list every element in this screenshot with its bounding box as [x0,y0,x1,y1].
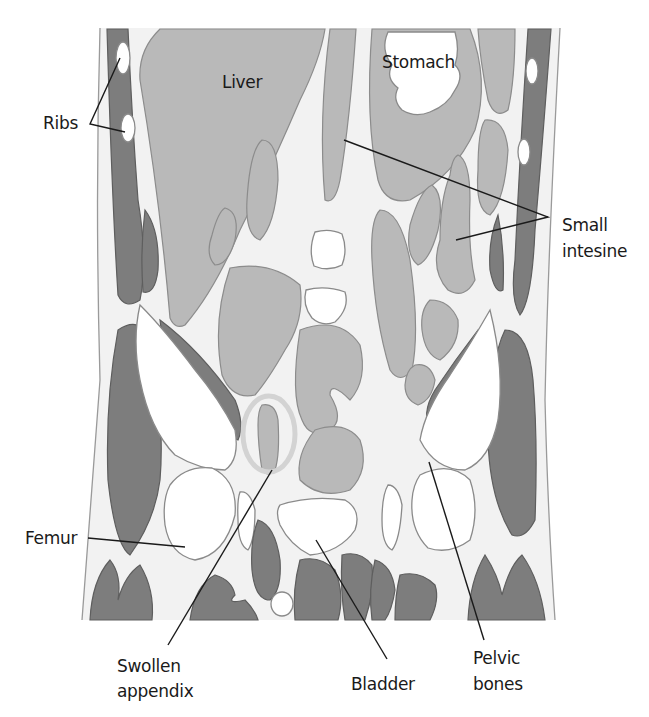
label-ribs: Ribs [43,113,78,133]
label-femur: Femur [25,528,77,548]
label-small-intestine-line2: intesine [562,241,627,261]
label-pelvic-bones-line1: Pelvic [473,648,520,668]
label-pelvic-bones-line2: bones [473,674,523,694]
label-liver: Liver [222,72,263,92]
abdomen-diagram: Liver Stomach Ribs Small intesine Femur … [0,0,649,717]
label-small-intestine-line1: Small [562,215,608,235]
label-bladder: Bladder [351,674,415,694]
label-swollen-appendix-line1: Swollen [117,656,181,676]
label-stomach: Stomach [382,52,455,72]
label-swollen-appendix-line2: appendix [117,681,194,701]
